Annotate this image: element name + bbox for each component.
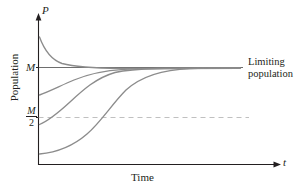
half-capacity-denominator: 2: [25, 117, 38, 128]
y-axis-arrowhead: [36, 13, 42, 21]
y-axis: [36, 13, 42, 165]
logistic-growth-figure: [0, 0, 304, 192]
y-axis-symbol: P: [42, 5, 49, 16]
carrying-capacity-tick-label: M: [26, 62, 35, 73]
limiting-population-label: Limiting population: [248, 56, 304, 79]
x-axis-arrowhead: [274, 162, 282, 168]
curve-decaying-above-M: [40, 37, 241, 69]
x-axis-symbol: t: [283, 157, 286, 168]
limiting-population-label-line1: Limiting: [248, 56, 285, 67]
curve-logistic-low-start: [40, 68, 241, 154]
curve-logistic-mid-start: [40, 68, 241, 124]
half-capacity-tick-label: M 2: [25, 105, 38, 128]
x-axis-label: Time: [131, 172, 154, 183]
x-axis: [39, 162, 282, 168]
y-axis-label: Population: [9, 39, 20, 117]
curve-logistic-high-start: [40, 68, 241, 95]
half-capacity-numerator: M: [25, 105, 38, 116]
limiting-population-label-line2: population: [248, 68, 293, 79]
